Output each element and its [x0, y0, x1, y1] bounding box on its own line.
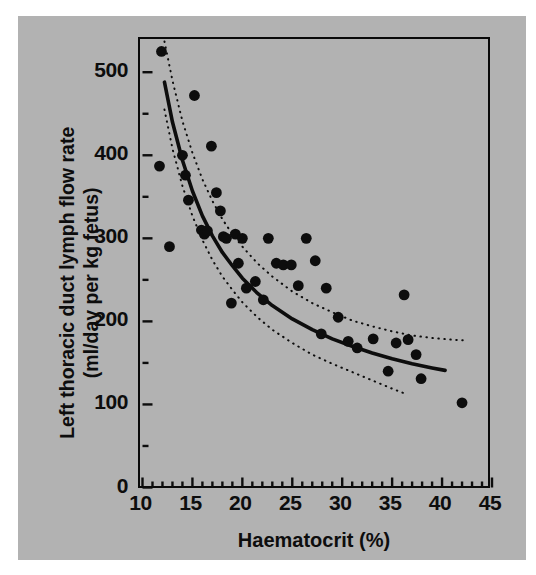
x-tick-label: 25 — [279, 491, 302, 515]
x-axis-title: Haematocrit (%) — [138, 529, 490, 552]
y-axis-title: Left thoracic duct lymph flow rate (ml/d… — [56, 73, 104, 493]
y-axis-title-line2: (ml/day per kg fetus) — [80, 73, 104, 493]
plot-frame — [138, 37, 490, 488]
axis-ticks-layer — [140, 39, 492, 490]
x-tick-label: 15 — [179, 491, 202, 515]
x-tick-label: 30 — [329, 491, 352, 515]
figure-panel: 0100200300400500 1015202530354045 Haemat… — [18, 16, 526, 560]
x-tick-label: 35 — [379, 491, 402, 515]
plot-area — [140, 39, 488, 486]
x-tick-label: 20 — [229, 491, 252, 515]
x-tick-label: 40 — [429, 491, 452, 515]
y-axis-title-line1: Left thoracic duct lymph flow rate — [56, 127, 78, 439]
x-tick-label: 10 — [129, 491, 152, 515]
x-tick-label: 45 — [479, 491, 502, 515]
